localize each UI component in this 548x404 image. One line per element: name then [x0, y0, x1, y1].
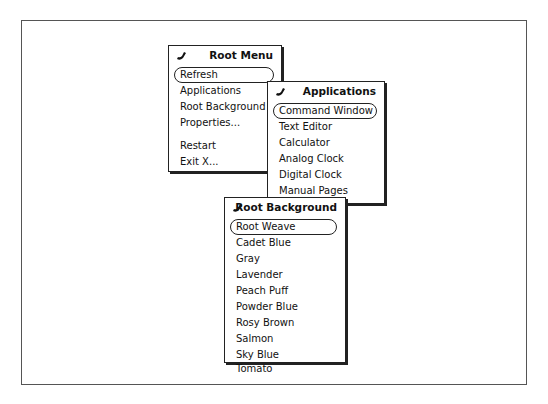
menu-item-salmon[interactable]: Salmon [233, 331, 273, 347]
menu-item-gray[interactable]: Gray [233, 251, 260, 267]
menu-item-lavender[interactable]: Lavender [233, 267, 283, 283]
menu-item-label: Refresh [180, 69, 218, 80]
menu-item-label: Restart [180, 140, 216, 151]
root-menu-header: Root Menu [169, 46, 281, 66]
menu-item-calculator[interactable]: Calculator [276, 135, 330, 151]
menu-item-label: Cadet Blue [236, 237, 291, 248]
menu-item-root-weave[interactable]: Root Weave [230, 219, 337, 235]
menu-item-label: Command Window [279, 105, 373, 116]
menu-item-label: Lavender [236, 269, 283, 280]
menu-item-command-window[interactable]: Command Window [273, 103, 377, 119]
menu-item-label: Salmon [236, 333, 273, 344]
menu-item-exit-x[interactable]: Exit X... [177, 154, 219, 170]
menu-item-text-editor[interactable]: Text Editor [276, 119, 332, 135]
root-menu-title: Root Menu [209, 49, 273, 61]
applications-menu: Applications Command Window Text Editor … [267, 81, 385, 204]
menu-item-label: Applications [180, 85, 241, 96]
menu-item-rosy-brown[interactable]: Rosy Brown [233, 315, 294, 331]
root-background-menu-header: Root Background [225, 198, 345, 218]
pushpin-icon[interactable] [175, 50, 189, 62]
menu-item-label: Gray [236, 253, 260, 264]
menu-item-restart[interactable]: Restart [177, 138, 216, 154]
menu-item-label: Root Background [180, 101, 266, 112]
pushpin-icon[interactable] [274, 86, 288, 98]
menu-item-sky-blue[interactable]: Sky Blue [233, 347, 279, 361]
menu-item-label: Digital Clock [279, 169, 342, 180]
menu-item-label: Analog Clock [279, 153, 344, 164]
menu-item-label: Sky Blue [236, 349, 279, 360]
menu-item-peach-puff[interactable]: Peach Puff [233, 283, 288, 299]
menu-item-label: Manual Pages [279, 185, 348, 196]
menu-item-cadet-blue[interactable]: Cadet Blue [233, 235, 291, 251]
root-menu: Root Menu Refresh Applications⌐ Root Bac… [168, 45, 282, 172]
applications-menu-title: Applications [303, 85, 376, 97]
menu-item-label: Root Weave [236, 221, 296, 232]
applications-menu-header: Applications [268, 82, 384, 102]
root-background-menu-title: Root Background [235, 201, 337, 213]
menu-item-powder-blue[interactable]: Powder Blue [233, 299, 298, 315]
menu-item-analog-clock[interactable]: Analog Clock [276, 151, 344, 167]
menu-item-root-background[interactable]: Root Background⌐ [177, 99, 277, 115]
menu-item-label: Powder Blue [236, 301, 298, 312]
menu-item-label: Text Editor [279, 121, 332, 132]
menu-item-label: Rosy Brown [236, 317, 294, 328]
menu-item-digital-clock[interactable]: Digital Clock [276, 167, 342, 183]
menu-item-label: Properties... [180, 117, 240, 128]
menu-item-label: Tomato [236, 363, 272, 374]
menu-item-label: Peach Puff [236, 285, 288, 296]
menu-item-label: Exit X... [180, 156, 219, 167]
root-background-menu: Root Background Root Weave Cadet Blue Gr… [224, 197, 346, 363]
menu-item-applications[interactable]: Applications⌐ [177, 83, 277, 99]
menu-item-label: Calculator [279, 137, 330, 148]
menu-item-properties[interactable]: Properties... [177, 115, 240, 131]
menu-item-refresh[interactable]: Refresh [174, 67, 274, 83]
